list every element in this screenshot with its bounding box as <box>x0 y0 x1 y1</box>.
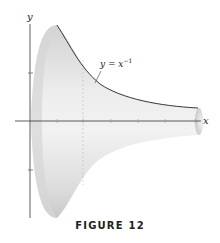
x-axis-label: x <box>203 115 209 126</box>
horn-surface <box>31 25 200 218</box>
curve-label: y = x−1 <box>99 57 132 69</box>
horn-opening <box>195 108 203 135</box>
gabriels-horn-figure: y x y = x−1 <box>0 0 220 243</box>
y-axis-label: y <box>26 11 33 22</box>
figure-caption: FIGURE 12 <box>0 220 220 231</box>
label-leader-line <box>95 71 101 83</box>
